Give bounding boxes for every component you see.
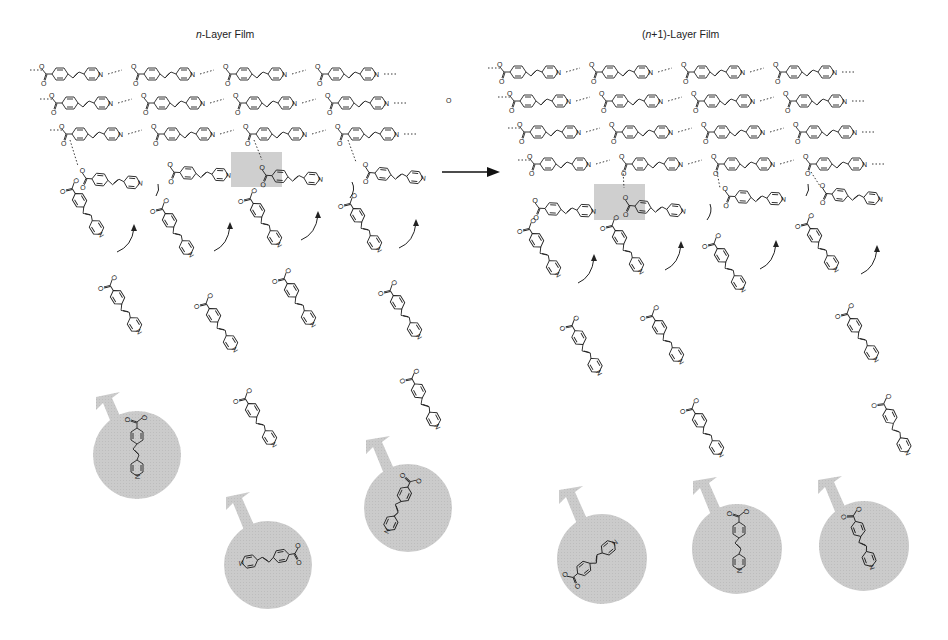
right-diagonal-chains [514,212,918,464]
left-free-molecule-3 [364,436,452,552]
process-arrow [442,167,500,177]
left-free-molecule-2 [224,492,312,609]
left-horizontal-rows [30,63,416,147]
right-free-molecule-2 [692,477,782,594]
stray-o-label: O [446,97,452,104]
right-free-molecule-3 [818,476,909,591]
left-free-molecule-1 [93,392,181,499]
left-highlight-box [231,152,282,187]
left-rotation-arrows [117,182,419,252]
right-horizontal-rows [488,61,884,177]
right-free-molecule-1 [557,486,647,604]
right-reacting-row [531,170,884,224]
layer-film-diagram: O O N [0,0,948,640]
